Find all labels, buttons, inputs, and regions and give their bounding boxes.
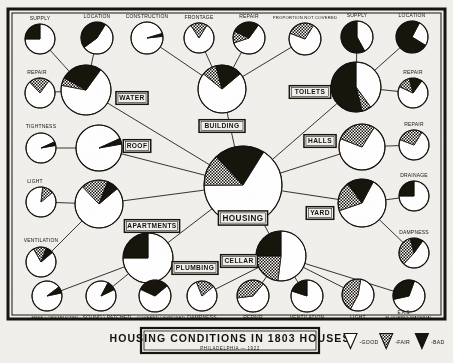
pie-toilet-location (396, 21, 428, 53)
leaf-label-bld-construction: CONSTRUCTION (126, 13, 169, 19)
legend-label-fair: -FAIR (395, 339, 410, 345)
leaf-label-water-location: LOCATION (84, 13, 111, 19)
pie-halls-repair (399, 130, 429, 160)
pie-cellar-ventilation (291, 280, 323, 312)
leaf-label-cellar-flooring: FLOORING MATERIAL (385, 315, 433, 320)
node-label-building: BUILDING (204, 122, 239, 129)
pie-water (61, 65, 111, 115)
pie-apt-ventilation (26, 247, 56, 277)
leaf-label-bld-notcovered: PROPORTION NOT COVERED (273, 15, 337, 20)
node-label-toilets: TOILETS (295, 88, 326, 95)
leaf-label-plumb-free: FREE \ OBSTRUCTED (32, 315, 79, 320)
pie-plumb-covered (139, 280, 171, 312)
chart-subtitle: PHILADELPHIA — 1922 (200, 346, 260, 351)
pie-cellar-repair (237, 280, 269, 312)
node-label-plumbing: PLUMBING (176, 264, 214, 271)
pie-bld-construction (131, 22, 163, 54)
pie-plumb-free (32, 281, 62, 311)
pie-toilet-repair (398, 78, 428, 108)
pie-apartments (75, 180, 123, 228)
housing-conditions-diagram: HOUSINGWATERROOFAPARTMENTSPLUMBINGBUILDI… (0, 0, 453, 363)
leaf-label-cellar-repair: REPAIR (243, 314, 263, 320)
node-label-yard: YARD (310, 209, 330, 216)
leaf-label-toilet-repair: REPAIR (403, 69, 423, 75)
pie-bld-notcovered (289, 23, 321, 55)
node-label-roof: ROOF (127, 142, 148, 149)
pie-yard (338, 179, 386, 227)
pie-halls (339, 124, 385, 170)
pie-bld-repair (233, 22, 265, 54)
pie-cellar-dampness (187, 281, 217, 311)
leaf-label-bld-repair: REPAIR (239, 13, 259, 19)
leaf-label-halls-repair: REPAIR (404, 121, 424, 127)
legend-label-good: -GOOD (360, 339, 379, 345)
node-label-water: WATER (119, 94, 144, 101)
leaf-label-yard-dampness: DAMPNESS (399, 229, 429, 235)
leaf-label-plumb-covered: COVERED \ EXPOSED (137, 315, 185, 320)
pie-cellar-light (342, 279, 374, 311)
chart-canvas: HOUSINGWATERROOFAPARTMENTSPLUMBINGBUILDI… (0, 0, 453, 363)
node-label-halls: HALLS (308, 137, 332, 144)
pie-bld-frontage (184, 23, 214, 53)
leaf-label-bld-frontage: FRONTAGE (184, 14, 213, 20)
pie-water-supply (25, 24, 55, 54)
pie-plumbing (123, 233, 173, 283)
leaf-label-cellar-ventilation: VENTILATION (290, 314, 325, 320)
node-label-cellar: CELLAR (224, 257, 253, 264)
legend-label-bad: -BAD (431, 339, 445, 345)
pie-cellar-flooring (393, 280, 425, 312)
leaf-label-roof-tightness: TIGHTNESS (26, 123, 57, 129)
pie-roof-tightness (26, 133, 56, 163)
pie-yard-drainage (399, 181, 429, 211)
pie-toilets (331, 62, 381, 112)
artist-initials: E.A.S. (397, 310, 410, 315)
node-label-housing: HOUSING (222, 214, 263, 223)
pie-cellar (256, 231, 306, 281)
pie-apt-light (26, 187, 56, 217)
pie-toilet-supply (341, 21, 373, 53)
pie-roof (76, 125, 122, 171)
chart-title: HOUSING CONDITIONS IN 1803 HOUSES (109, 332, 350, 344)
leaf-label-yard-drainage: DRAINAGE (400, 172, 428, 178)
pie-plumb-sound (86, 281, 116, 311)
leaf-label-apt-light: LIGHT (27, 178, 43, 184)
leaf-label-water-supply: SUPPLY (30, 15, 51, 21)
leaf-label-cellar-dampness: DAMPNESS (187, 314, 217, 320)
leaf-label-apt-ventilation: VENTILATION (24, 237, 59, 243)
leaf-label-cellar-light: LIGHT (350, 314, 366, 320)
leaf-label-toilet-supply: SUPPLY (347, 12, 368, 18)
leaf-label-plumb-sound: SOUND \ PATCHED (83, 314, 132, 320)
node-label-apartments: APARTMENTS (127, 222, 177, 229)
leaf-label-toilet-location: LOCATION (399, 12, 426, 18)
pie-yard-dampness (399, 238, 429, 268)
pie-water-repair (25, 78, 55, 108)
pie-building (198, 65, 246, 113)
leaf-label-water-repair: REPAIR (27, 69, 47, 75)
pie-water-location (81, 22, 113, 54)
